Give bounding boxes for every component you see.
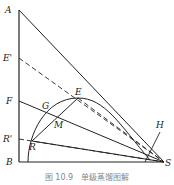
figure-caption: 图 10.9 单级蒸馏图解: [0, 171, 174, 182]
hypotenuse-as: [19, 10, 164, 162]
line-r-s: [32, 141, 164, 162]
label-h: H: [155, 120, 164, 130]
label-r-prime: R': [2, 134, 12, 144]
label-s: S: [165, 158, 171, 168]
label-a: A: [4, 5, 12, 15]
label-r: R: [28, 142, 36, 152]
distillation-diagram: A E' F R' B G E M R H S: [0, 0, 174, 170]
label-e: E: [74, 87, 82, 97]
label-g: G: [42, 101, 49, 111]
dashed-e-s: [78, 98, 164, 162]
label-f: F: [5, 96, 13, 106]
label-m: M: [53, 120, 64, 130]
label-e-prime: E': [2, 53, 12, 63]
label-b: B: [5, 157, 13, 167]
